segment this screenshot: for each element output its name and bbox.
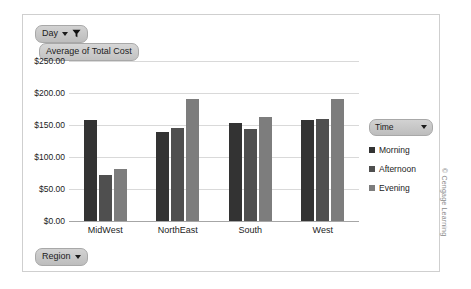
bar-morning-midwest[interactable] — [84, 120, 97, 221]
legend-item-afternoon[interactable]: Afternoon — [369, 164, 435, 174]
y-axis-tick-250: $250.00 — [9, 56, 65, 66]
legend-item-morning[interactable]: Morning — [369, 145, 435, 155]
y-axis-tick-0: $0.00 — [9, 216, 65, 226]
bar-afternoon-west[interactable] — [316, 119, 329, 221]
bar-group: West — [287, 61, 360, 221]
chart-frame: Day Average of Total Cost $250.00 $200.0… — [22, 14, 440, 272]
legend-swatch-icon — [369, 166, 375, 172]
y-axis-tick-50: $50.00 — [9, 184, 65, 194]
y-axis-tick-200: $200.00 — [9, 88, 65, 98]
bar-evening-northeast[interactable] — [186, 99, 199, 221]
legend: Time MorningAfternoonEvening — [369, 119, 435, 193]
value-field-label: Average of Total Cost — [46, 47, 132, 56]
chevron-down-icon[interactable] — [421, 125, 427, 129]
bar-groups: MidWestNorthEastSouthWest — [69, 61, 359, 221]
legend-item-label: Evening — [379, 183, 410, 193]
legend-item-evening[interactable]: Evening — [369, 183, 435, 193]
day-filter-label: Day — [42, 29, 58, 38]
legend-swatch-icon — [369, 185, 375, 191]
x-axis-line — [69, 221, 359, 222]
bar-morning-south[interactable] — [229, 123, 242, 221]
bar-group: MidWest — [69, 61, 142, 221]
legend-item-label: Afternoon — [379, 164, 416, 174]
bar-group: South — [214, 61, 287, 221]
chevron-down-icon[interactable] — [75, 255, 81, 259]
x-axis-label: South — [214, 225, 287, 235]
bar-group: NorthEast — [142, 61, 215, 221]
x-axis-label: MidWest — [69, 225, 142, 235]
filter-funnel-icon[interactable] — [72, 29, 81, 38]
bar-morning-west[interactable] — [301, 120, 314, 221]
x-axis-label: NorthEast — [142, 225, 215, 235]
pivot-chart-screenshot: Day Average of Total Cost $250.00 $200.0… — [0, 0, 471, 289]
chevron-down-icon[interactable] — [62, 32, 68, 36]
legend-item-label: Morning — [379, 145, 410, 155]
region-field-label: Region — [42, 252, 71, 261]
legend-title: Time — [375, 122, 394, 132]
x-axis-label: West — [287, 225, 360, 235]
day-filter-button[interactable]: Day — [35, 25, 88, 43]
bar-morning-northeast[interactable] — [156, 132, 169, 221]
y-axis-tick-100: $100.00 — [9, 152, 65, 162]
bar-afternoon-midwest[interactable] — [99, 175, 112, 221]
bar-evening-south[interactable] — [259, 117, 272, 221]
y-axis-tick-150: $150.00 — [9, 120, 65, 130]
bar-afternoon-northeast[interactable] — [171, 128, 184, 221]
bar-evening-midwest[interactable] — [114, 169, 127, 221]
copyright-credit: © Cengage Learning — [441, 168, 448, 236]
bar-evening-west[interactable] — [331, 99, 344, 221]
legend-items: MorningAfternoonEvening — [369, 145, 435, 193]
bar-afternoon-south[interactable] — [244, 129, 257, 221]
legend-field-button[interactable]: Time — [369, 119, 433, 136]
legend-swatch-icon — [369, 147, 375, 153]
plot-area: $250.00 $200.00 $150.00 $100.00 $50.00 $… — [69, 61, 359, 235]
region-field-button[interactable]: Region — [35, 248, 88, 266]
